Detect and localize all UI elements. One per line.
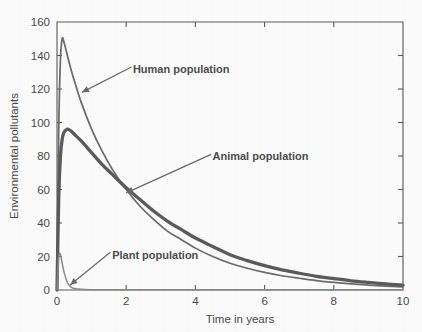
y-tick-label-8: 160 bbox=[31, 16, 50, 28]
chart-series-group bbox=[57, 38, 403, 290]
x-tick-label-1: 2 bbox=[123, 295, 129, 307]
x-tick-label-5: 10 bbox=[397, 295, 410, 307]
y-tick-label-0: 0 bbox=[44, 284, 50, 296]
chart-annotations-group: Human populationAnimal populationPlant p… bbox=[70, 63, 309, 285]
annotation-arrow-2 bbox=[70, 252, 110, 285]
annotation-label-plant-population: Plant population bbox=[112, 249, 198, 261]
x-tick-label-0: 0 bbox=[54, 295, 60, 307]
annotation-arrow-1 bbox=[126, 154, 211, 193]
x-tick-label-2: 4 bbox=[192, 295, 199, 307]
y-tick-label-3: 60 bbox=[37, 184, 50, 196]
series-line-human-population bbox=[57, 38, 403, 290]
y-tick-label-7: 140 bbox=[31, 50, 50, 62]
annotation-label-human-population: Human population bbox=[133, 63, 230, 75]
chart-figure: 0246810020406080100120140160Time in year… bbox=[0, 0, 422, 332]
y-tick-label-6: 120 bbox=[31, 83, 50, 95]
y-axis-title: Environmental pollutants bbox=[8, 93, 20, 219]
annotation-arrow-0 bbox=[82, 67, 132, 92]
x-axis-title: Time in years bbox=[206, 313, 275, 325]
y-tick-label-1: 20 bbox=[37, 251, 50, 263]
y-tick-label-2: 40 bbox=[37, 217, 50, 229]
y-tick-label-4: 80 bbox=[37, 150, 50, 162]
x-tick-label-4: 8 bbox=[331, 295, 337, 307]
y-tick-label-5: 100 bbox=[31, 117, 50, 129]
x-tick-label-3: 6 bbox=[261, 295, 267, 307]
annotation-label-animal-population: Animal population bbox=[213, 150, 309, 162]
population-pollutants-line-chart: 0246810020406080100120140160Time in year… bbox=[0, 0, 422, 332]
